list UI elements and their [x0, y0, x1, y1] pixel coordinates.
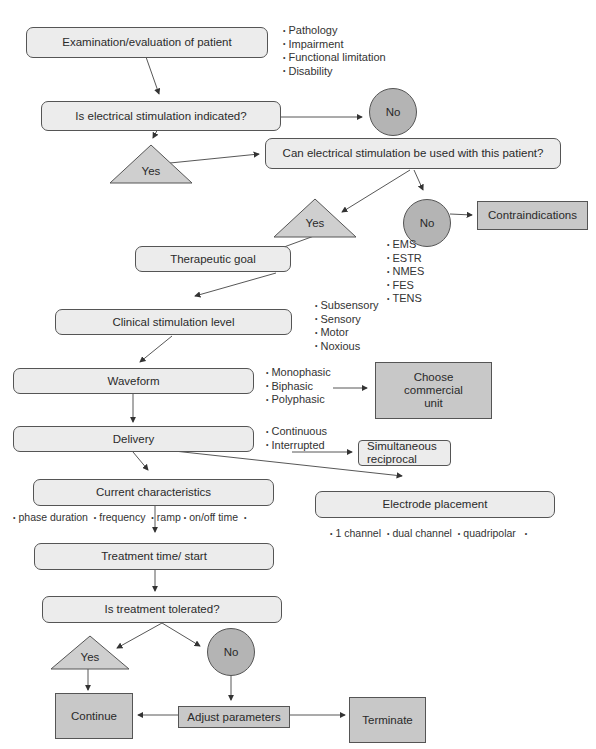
no-circle-1: No	[369, 88, 417, 136]
goals-list: EMS ESTR NMES FES TENS	[387, 238, 424, 306]
tolerated-node: Is treatment tolerated?	[42, 596, 282, 623]
yes-label: Yes	[108, 165, 194, 177]
delivery-node: Delivery	[13, 426, 254, 452]
choose-unit-node: Choose commercial unit	[375, 362, 492, 419]
continue-label: Continue	[71, 710, 117, 723]
therapeutic-goal-node: Therapeutic goal	[135, 246, 291, 272]
terminate-node: Terminate	[349, 697, 426, 743]
adjust-parameters-label: Adjust parameters	[187, 711, 280, 724]
list-item: Biphasic	[266, 380, 331, 394]
yes-label: Yes	[272, 217, 358, 229]
treatment-time-label: Treatment time/ start	[101, 550, 207, 563]
list-item: Interrupted	[266, 439, 327, 453]
clinical-level-label: Clinical stimulation level	[112, 316, 234, 329]
examination-factors-list: Pathology Impairment Functional limitati…	[283, 24, 386, 78]
delivery-label: Delivery	[113, 433, 155, 446]
electrode-placement-node: Electrode placement	[315, 491, 555, 518]
yes-triangle-2: Yes	[272, 198, 358, 238]
list-item: dual channel	[392, 527, 452, 539]
continue-node: Continue	[55, 693, 133, 739]
contraindications-label: Contraindications	[488, 209, 577, 222]
simultaneous-label: Simultaneous reciprocal	[367, 440, 450, 466]
list-item: Monophasic	[266, 366, 331, 380]
waveform-label: Waveform	[108, 375, 160, 388]
adjust-parameters-node: Adjust parameters	[178, 706, 290, 728]
yes-triangle-3: Yes	[49, 635, 131, 670]
current-characteristics-label: Current characteristics	[96, 486, 211, 499]
list-item: TENS	[387, 292, 424, 306]
no-label: No	[420, 217, 435, 230]
electrode-configs-list: •1 channel •dual channel •quadripolar •	[327, 527, 530, 539]
yes-label: Yes	[49, 651, 131, 663]
list-item: Motor	[315, 326, 379, 340]
list-item: Noxious	[315, 340, 379, 354]
examination-node: Examination/evaluation of patient	[26, 27, 268, 58]
simultaneous-reciprocal-node: Simultaneous reciprocal	[358, 440, 451, 466]
terminate-label: Terminate	[362, 714, 413, 727]
list-item: Sensory	[315, 313, 379, 327]
current-characteristics-node: Current characteristics	[33, 479, 274, 506]
levels-list: Subsensory Sensory Motor Noxious	[315, 299, 379, 353]
list-item: Functional limitation	[283, 51, 386, 65]
contraindications-node: Contraindications	[477, 201, 588, 230]
list-item: Disability	[283, 65, 386, 79]
list-item: ESTR	[387, 252, 424, 266]
list-item: Continuous	[266, 425, 327, 439]
tolerated-label: Is treatment tolerated?	[104, 603, 219, 616]
can-use-label: Can electrical stimulation be used with …	[283, 147, 544, 160]
examination-label: Examination/evaluation of patient	[62, 36, 231, 49]
electrode-placement-label: Electrode placement	[383, 498, 488, 511]
list-item: ramp	[157, 511, 181, 523]
list-item: phase duration	[18, 511, 87, 523]
list-item: frequency	[99, 511, 145, 523]
es-indicated-node: Is electrical stimulation indicated?	[41, 101, 281, 131]
waveforms-list: Monophasic Biphasic Polyphasic	[266, 366, 331, 407]
clinical-level-node: Clinical stimulation level	[55, 309, 292, 335]
triangle-shape	[108, 144, 194, 184]
current-params-list: •phase duration •frequency •ramp•on/off …	[10, 511, 249, 523]
no-label: No	[386, 106, 401, 119]
therapeutic-goal-label: Therapeutic goal	[170, 253, 256, 266]
no-circle-3: No	[207, 628, 255, 676]
list-item: Subsensory	[315, 299, 379, 313]
list-item: Impairment	[283, 38, 386, 52]
list-item: quadripolar	[463, 527, 516, 539]
list-item: Polyphasic	[266, 393, 331, 407]
can-use-node: Can electrical stimulation be used with …	[265, 138, 561, 169]
waveform-node: Waveform	[13, 368, 254, 394]
list-item: Pathology	[283, 24, 386, 38]
list-item: NMES	[387, 265, 424, 279]
list-item: FES	[387, 279, 424, 293]
yes-triangle-1: Yes	[108, 144, 194, 184]
delivery-modes-list: Continuous Interrupted	[266, 425, 327, 452]
list-item: 1 channel	[335, 527, 381, 539]
list-item: EMS	[387, 238, 424, 252]
list-item: on/off time	[189, 511, 238, 523]
choose-unit-label: Choose commercial unit	[394, 371, 473, 410]
no-label: No	[224, 646, 239, 659]
es-indicated-label: Is electrical stimulation indicated?	[75, 110, 246, 123]
treatment-time-node: Treatment time/ start	[34, 543, 274, 570]
